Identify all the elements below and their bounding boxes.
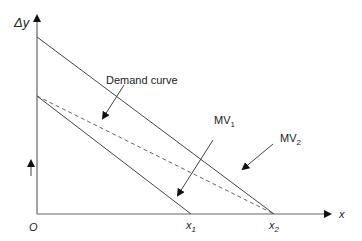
mv2-sub: 2: [297, 138, 302, 147]
mv1-sub: 1: [231, 120, 236, 129]
mv1-pointer: [178, 140, 213, 195]
mv1-base: MV: [214, 114, 231, 126]
demand-curve-line: [37, 96, 274, 214]
mv2-label: MV2: [280, 132, 302, 147]
x2-sub: 2: [274, 225, 280, 234]
origin-label: O: [29, 221, 38, 233]
mv1-line: [37, 96, 191, 214]
demand-curve-pointer: [103, 85, 124, 118]
demand-curve-label: Demand curve: [106, 74, 178, 86]
x1-sub: 1: [192, 225, 196, 234]
mv2-pointer: [243, 144, 273, 169]
x-axis-label: x: [338, 208, 345, 220]
x1-tick-label: x1: [185, 219, 196, 234]
y-axis-label: Δy: [13, 15, 31, 30]
x2-tick-label: x2: [268, 219, 280, 234]
mv2-base: MV: [280, 132, 297, 144]
mv-demand-diagram: Δy O x x1 x2 Demand curve MV1 MV2: [0, 0, 362, 241]
mv2-line: [37, 37, 274, 214]
mv1-label: MV1: [214, 114, 236, 129]
